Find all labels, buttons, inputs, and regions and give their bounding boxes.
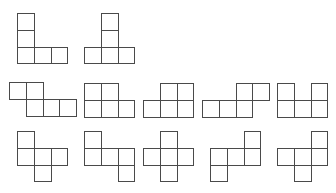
square-cell [311, 83, 328, 101]
square-cell [51, 148, 68, 166]
square-cell [160, 148, 178, 166]
square-cell [160, 100, 178, 118]
square-cell [9, 82, 27, 100]
square-cell [236, 83, 253, 101]
square-cell [219, 100, 237, 118]
square-cell [311, 148, 328, 166]
square-cell [118, 100, 135, 118]
square-cell [143, 100, 161, 118]
square-cell [294, 100, 312, 118]
square-cell [118, 148, 135, 166]
square-cell [43, 99, 60, 117]
square-cell [244, 148, 261, 166]
square-cell [311, 131, 328, 149]
square-cell [277, 100, 295, 118]
square-cell [202, 100, 220, 118]
square-cell [160, 165, 178, 182]
square-cell [84, 131, 102, 149]
square-cell [51, 47, 68, 64]
square-cell [294, 148, 312, 166]
square-cell [17, 30, 35, 48]
square-cell [17, 47, 35, 64]
square-cell [17, 13, 35, 31]
square-cell [227, 148, 245, 166]
square-cell [160, 83, 178, 101]
square-cell [311, 100, 328, 118]
square-cell [26, 82, 44, 100]
square-cell [17, 131, 35, 149]
square-cell [59, 99, 77, 117]
square-cell [84, 148, 102, 166]
square-cell [294, 165, 312, 182]
square-cell [84, 47, 102, 64]
square-cell [84, 83, 102, 101]
square-cell [210, 165, 228, 182]
square-cell [236, 100, 253, 118]
square-cell [177, 148, 194, 166]
square-cell [34, 165, 52, 182]
square-cell [26, 99, 44, 117]
square-cell [244, 131, 261, 149]
square-cell [101, 100, 119, 118]
square-cell [34, 148, 52, 166]
square-cell [34, 47, 52, 64]
square-cell [177, 83, 194, 101]
square-cell [101, 13, 119, 31]
square-cell [252, 83, 270, 101]
square-cell [84, 100, 102, 118]
square-cell [17, 148, 35, 166]
square-cell [118, 47, 135, 64]
square-cell [277, 83, 295, 101]
square-cell [177, 100, 194, 118]
square-cell [118, 165, 135, 182]
square-cell [143, 148, 161, 166]
square-cell [277, 148, 295, 166]
square-cell [101, 30, 119, 48]
square-cell [101, 83, 119, 101]
square-cell [101, 47, 119, 64]
square-cell [101, 148, 119, 166]
square-cell [160, 131, 178, 149]
square-cell [210, 148, 228, 166]
